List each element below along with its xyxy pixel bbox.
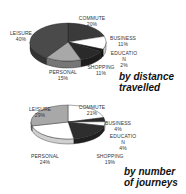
- label-business: BUSINESS4%: [103, 120, 133, 132]
- label-commute: COMMUTE21%: [77, 104, 107, 116]
- label-personal: PERSONAL24%: [30, 153, 60, 165]
- caption-journeys: by numberof journeys: [124, 166, 178, 188]
- label-education: EDUCATION4%: [108, 133, 138, 151]
- label-leisure: LEISURE29%: [25, 106, 55, 118]
- label-business: BUSINESS11%: [108, 35, 138, 47]
- label-commute: COMMUTE20%: [77, 15, 107, 27]
- label-shopping: SHOPPING19%: [95, 153, 125, 165]
- label-shopping: SHOPPING11%: [86, 64, 116, 76]
- label-leisure: LEISURE40%: [6, 30, 36, 42]
- label-personal: PERSONAL15%: [48, 69, 78, 81]
- caption-distance: by distancetravelled: [119, 71, 174, 93]
